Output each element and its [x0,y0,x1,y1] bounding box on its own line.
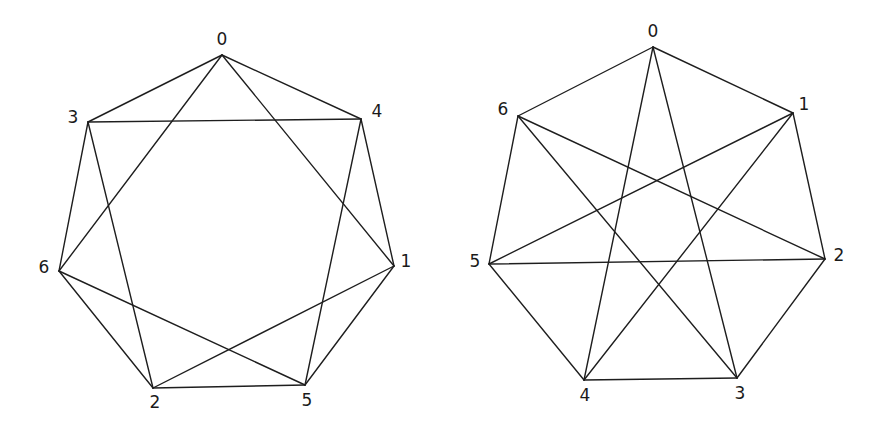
edge-1-5 [305,266,394,385]
edge-2-5 [153,385,305,388]
vertex-label-2: 2 [150,392,161,412]
vertex-label-2: 2 [834,245,845,265]
edge-6-2 [518,116,825,259]
edge-4-1 [361,119,394,266]
edge-5-6 [489,116,518,264]
edge-3-4 [88,119,361,122]
edge-0-4 [584,47,653,380]
left-graph-labels: 0415263 [39,29,412,412]
right-graph-labels: 0123456 [470,21,845,405]
edge-3-4 [584,378,737,380]
edge-6-5 [59,271,305,385]
vertex-label-3: 3 [68,107,79,127]
edge-4-5 [305,119,361,385]
left-graph-edges [59,55,394,388]
figure: 0415263 0123456 [0,0,887,439]
edge-0-4 [222,55,361,119]
vertex-label-6: 6 [498,99,509,119]
edge-0-1 [222,55,394,266]
graph-diagram-canvas: 0415263 0123456 [0,0,887,439]
vertex-label-1: 1 [401,251,412,271]
right-graph-edges [489,47,825,380]
right-graph: 0123456 [470,21,845,405]
edge-0-6 [59,55,222,271]
vertex-label-0: 0 [217,29,228,49]
left-graph: 0415263 [39,29,412,412]
vertex-label-4: 4 [372,101,383,121]
edge-6-0 [518,47,653,116]
edge-2-3 [737,259,825,378]
edge-4-5 [489,264,584,380]
edge-1-4 [584,113,793,380]
edge-0-3 [88,55,222,122]
edge-0-1 [653,47,793,113]
vertex-label-4: 4 [580,385,591,405]
edge-1-2 [793,113,825,259]
vertex-label-5: 5 [302,390,313,410]
vertex-label-3: 3 [735,383,746,403]
edge-3-6 [59,122,88,271]
edge-5-2 [489,259,825,264]
vertex-label-6: 6 [39,257,50,277]
vertex-label-5: 5 [470,251,481,271]
vertex-label-0: 0 [648,21,659,41]
vertex-label-1: 1 [799,94,810,114]
